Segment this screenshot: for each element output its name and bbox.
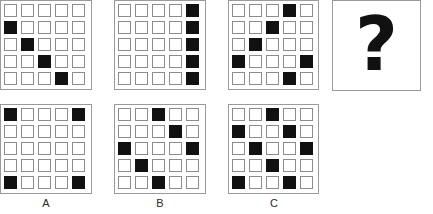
- empty-cell: [118, 125, 131, 138]
- empty-cell: [169, 159, 182, 172]
- empty-cell: [249, 72, 262, 85]
- filled-cell: [186, 142, 199, 155]
- empty-cell: [38, 4, 51, 17]
- filled-cell: [232, 176, 245, 189]
- empty-cell: [4, 72, 17, 85]
- answer-option-c[interactable]: [228, 104, 319, 194]
- empty-cell: [232, 159, 245, 172]
- empty-cell: [169, 142, 182, 155]
- filled-cell: [266, 108, 279, 121]
- empty-cell: [266, 55, 279, 68]
- empty-cell: [38, 142, 51, 155]
- empty-cell: [283, 55, 296, 68]
- empty-cell: [135, 125, 148, 138]
- empty-cell: [232, 142, 245, 155]
- empty-cell: [266, 4, 279, 17]
- empty-cell: [135, 142, 148, 155]
- empty-cell: [232, 72, 245, 85]
- sequence-panel-3: [228, 0, 319, 90]
- filled-cell: [4, 176, 17, 189]
- empty-cell: [72, 38, 85, 51]
- empty-cell: [283, 38, 296, 51]
- empty-cell: [118, 55, 131, 68]
- empty-cell: [300, 159, 313, 172]
- empty-cell: [186, 125, 199, 138]
- empty-cell: [72, 55, 85, 68]
- empty-cell: [21, 108, 34, 121]
- sequence-panel-2: [114, 0, 206, 90]
- filled-cell: [21, 38, 34, 51]
- empty-cell: [300, 125, 313, 138]
- empty-cell: [38, 159, 51, 172]
- empty-cell: [152, 21, 165, 34]
- empty-cell: [38, 176, 51, 189]
- cell-grid: [4, 4, 85, 85]
- empty-cell: [4, 142, 17, 155]
- empty-cell: [169, 72, 182, 85]
- empty-cell: [55, 108, 68, 121]
- filled-cell: [283, 125, 296, 138]
- empty-cell: [300, 38, 313, 51]
- empty-cell: [21, 125, 34, 138]
- filled-cell: [232, 55, 245, 68]
- filled-cell: [249, 38, 262, 51]
- question-mark-wrap: ?: [333, 1, 420, 90]
- empty-cell: [135, 21, 148, 34]
- empty-cell: [186, 159, 199, 172]
- empty-cell: [152, 72, 165, 85]
- sequence-panel-1: [0, 0, 92, 90]
- empty-cell: [232, 4, 245, 17]
- empty-cell: [135, 4, 148, 17]
- empty-cell: [55, 4, 68, 17]
- empty-cell: [72, 72, 85, 85]
- empty-cell: [266, 125, 279, 138]
- cell-grid: [232, 108, 313, 189]
- empty-cell: [118, 38, 131, 51]
- cell-grid: [4, 108, 85, 189]
- cell-grid: [232, 4, 313, 85]
- filled-cell: [232, 125, 245, 138]
- filled-cell: [186, 4, 199, 17]
- filled-cell: [300, 142, 313, 155]
- filled-cell: [72, 176, 85, 189]
- empty-cell: [169, 38, 182, 51]
- filled-cell: [135, 159, 148, 172]
- answer-label-a: A: [0, 197, 92, 209]
- empty-cell: [169, 55, 182, 68]
- question-mark-icon: ?: [355, 7, 398, 81]
- empty-cell: [152, 4, 165, 17]
- empty-cell: [55, 21, 68, 34]
- empty-cell: [152, 159, 165, 172]
- empty-cell: [249, 176, 262, 189]
- empty-cell: [21, 21, 34, 34]
- empty-cell: [21, 72, 34, 85]
- empty-cell: [118, 176, 131, 189]
- filled-cell: [249, 142, 262, 155]
- empty-cell: [266, 142, 279, 155]
- filled-cell: [38, 55, 51, 68]
- empty-cell: [55, 142, 68, 155]
- empty-cell: [300, 21, 313, 34]
- empty-cell: [266, 176, 279, 189]
- empty-cell: [21, 176, 34, 189]
- empty-cell: [266, 38, 279, 51]
- empty-cell: [300, 108, 313, 121]
- empty-cell: [135, 38, 148, 51]
- empty-cell: [186, 108, 199, 121]
- answer-label-c: C: [228, 197, 320, 209]
- matrix-puzzle: ? A B C: [0, 0, 433, 214]
- answer-label-b: B: [114, 197, 206, 209]
- empty-cell: [169, 21, 182, 34]
- empty-cell: [118, 72, 131, 85]
- empty-cell: [72, 142, 85, 155]
- empty-cell: [55, 55, 68, 68]
- answer-option-b[interactable]: [114, 104, 206, 194]
- answer-option-a[interactable]: [0, 104, 92, 194]
- filled-cell: [118, 142, 131, 155]
- filled-cell: [72, 108, 85, 121]
- empty-cell: [186, 176, 199, 189]
- empty-cell: [72, 21, 85, 34]
- empty-cell: [38, 72, 51, 85]
- empty-cell: [169, 176, 182, 189]
- empty-cell: [21, 159, 34, 172]
